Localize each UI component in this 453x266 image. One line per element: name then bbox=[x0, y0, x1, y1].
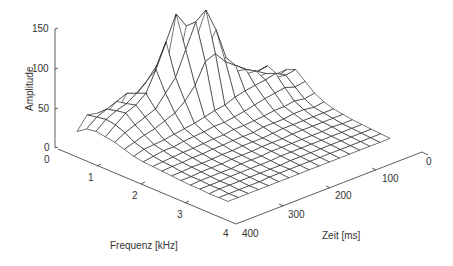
y-tick bbox=[279, 204, 283, 206]
y-tick-400: 400 bbox=[242, 229, 259, 239]
z-tick-50: 50 bbox=[38, 104, 49, 114]
wireframe-mesh bbox=[77, 10, 390, 201]
y-tick bbox=[372, 168, 376, 170]
x-tick bbox=[141, 182, 145, 184]
chart-root: Amplitude 150 100 50 0 0 1 2 3 4 400 300… bbox=[0, 0, 453, 266]
x-tick-3: 3 bbox=[177, 210, 183, 220]
z-tick bbox=[55, 28, 58, 29]
z-tick-100: 100 bbox=[32, 64, 49, 74]
y-tick-200: 200 bbox=[335, 191, 352, 201]
y-tick bbox=[326, 186, 330, 188]
z-tick-0: 0 bbox=[44, 143, 50, 153]
y-tick-100: 100 bbox=[382, 174, 399, 184]
x-tick-4: 4 bbox=[223, 229, 229, 239]
y-tick-0: 0 bbox=[426, 157, 432, 167]
y-axis-label: Zeit [ms] bbox=[322, 231, 360, 241]
surface-plot bbox=[0, 0, 453, 266]
x-axis-label: Frequenz [kHz] bbox=[110, 241, 178, 251]
z-tick bbox=[55, 147, 58, 148]
x-tick-2: 2 bbox=[132, 191, 138, 201]
z-tick bbox=[55, 68, 58, 69]
x-tick bbox=[97, 164, 101, 166]
y-axis-end bbox=[422, 152, 428, 155]
x-tick bbox=[185, 201, 189, 203]
z-tick bbox=[55, 108, 58, 109]
y-tick-300: 300 bbox=[288, 210, 305, 220]
z-tick-150: 150 bbox=[32, 24, 49, 34]
x-tick-0: 0 bbox=[44, 155, 50, 165]
x-tick-1: 1 bbox=[88, 173, 94, 183]
